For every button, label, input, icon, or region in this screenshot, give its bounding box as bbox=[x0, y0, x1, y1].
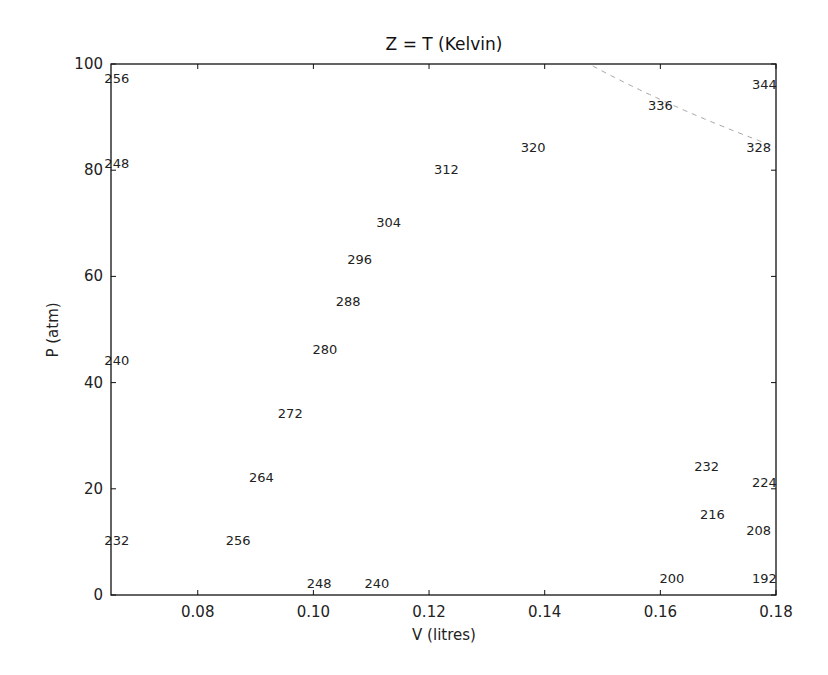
x-axis-ticks: 0.080.100.120.140.160.18 bbox=[181, 64, 793, 621]
y-tick-label: 20 bbox=[84, 480, 103, 498]
x-tick-label: 0.16 bbox=[644, 603, 677, 621]
contour-label: 208 bbox=[746, 523, 771, 538]
x-axis-label: V (litres) bbox=[412, 626, 476, 644]
contour-label: 216 bbox=[700, 507, 725, 522]
y-axis-label: P (atm) bbox=[44, 302, 62, 357]
contour-label: 272 bbox=[278, 406, 303, 421]
contour-label: 232 bbox=[694, 459, 719, 474]
y-tick-label: 40 bbox=[84, 374, 103, 392]
contour-label: 192 bbox=[752, 571, 777, 586]
contour-label: 240 bbox=[365, 576, 390, 591]
y-tick-label: 80 bbox=[84, 161, 103, 179]
x-tick-label: 0.14 bbox=[528, 603, 561, 621]
x-tick-label: 0.10 bbox=[297, 603, 330, 621]
contour-192 bbox=[377, 0, 776, 147]
contour-label: 224 bbox=[752, 475, 777, 490]
contour-label: 296 bbox=[347, 252, 372, 267]
y-tick-label: 60 bbox=[84, 267, 103, 285]
contour-label: 248 bbox=[307, 576, 332, 591]
y-tick-label: 0 bbox=[93, 586, 103, 604]
contour-label: 256 bbox=[226, 533, 251, 548]
contour-label: 312 bbox=[434, 162, 459, 177]
contour-label: 256 bbox=[104, 71, 129, 86]
y-axis-ticks: 020406080100 bbox=[74, 55, 776, 604]
chart-title: Z = T (Kelvin) bbox=[386, 34, 503, 54]
contour-chart: Z = T (Kelvin) 2562482402323443363283203… bbox=[0, 0, 828, 675]
contour-label: 264 bbox=[249, 470, 274, 485]
contour-lines bbox=[377, 0, 776, 147]
x-tick-label: 0.08 bbox=[181, 603, 214, 621]
contour-label: 344 bbox=[752, 77, 777, 92]
contour-label: 200 bbox=[659, 571, 684, 586]
x-tick-label: 0.18 bbox=[759, 603, 792, 621]
axes-frame bbox=[111, 64, 776, 595]
contour-200 bbox=[598, 0, 776, 18]
contour-label: 248 bbox=[104, 156, 129, 171]
contour-label: 320 bbox=[521, 140, 546, 155]
contour-label: 328 bbox=[746, 140, 771, 155]
contour-label: 336 bbox=[648, 98, 673, 113]
x-tick-label: 0.12 bbox=[412, 603, 445, 621]
contour-label: 240 bbox=[104, 353, 129, 368]
contour-label: 304 bbox=[376, 215, 401, 230]
contour-label: 288 bbox=[336, 294, 361, 309]
y-tick-label: 100 bbox=[74, 55, 103, 73]
contour-label: 280 bbox=[313, 342, 338, 357]
contour-labels: 2562482402323443363283203123042962882802… bbox=[104, 71, 776, 590]
contour-label: 232 bbox=[104, 533, 129, 548]
